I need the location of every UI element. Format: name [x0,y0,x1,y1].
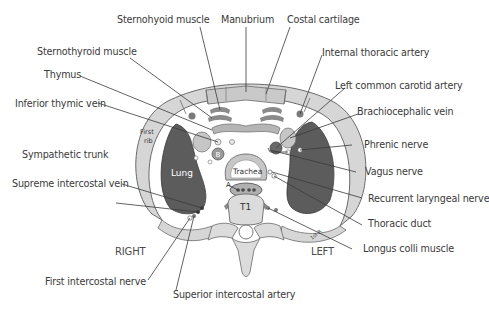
label-sternothyroid-muscle: Sternothyroid muscle [37,46,137,57]
b-marker-label: B [216,151,221,159]
label-supreme-intercostal-vein: Supreme intercostal vein [12,178,129,189]
strap-muscles [208,107,284,122]
label-recurrent-laryngeal-nerve: Recurrent laryngeal nerve [368,193,489,204]
label-manubrium: Manubrium [221,14,274,25]
first-rib-label-1: First [140,128,154,136]
thymus-shape [212,124,280,134]
label-superior-intercostal-artery: Superior intercostal artery [173,289,295,300]
orientation-left: LEFT [311,246,334,257]
label-phrenic-nerve: Phrenic nerve [364,139,428,150]
orientation-right: RIGHT [115,246,146,257]
label-costal-cartilage: Costal cartilage [287,14,360,25]
label-longus-colli-muscle: Longus colli muscle [363,243,454,254]
label-sternohyoid-muscle: Sternohyoid muscle [117,14,209,25]
trachea-label: Trachea [232,167,262,176]
label-inferior-thymic-vein: Inferior thymic vein [15,98,106,109]
label-brachiocephalic-vein: Brachiocephalic vein [357,106,454,117]
label-first-intercostal-nerve: First intercostal nerve [45,276,146,287]
label-thoracic-duct: Thoracic duct [368,218,431,229]
lung-label: Lung [171,168,193,178]
label-vagus-nerve: Vagus nerve [365,166,423,177]
label-internal-thoracic-artery: Internal thoracic artery [322,47,429,58]
label-sympathetic-trunk: Sympathetic trunk [22,149,108,160]
vertebra-label: T1 [239,202,251,212]
first-rib-label-2: rib [144,137,153,145]
label-thymus: Thymus [44,69,81,80]
label-left-common-carotid-artery: Left common carotid artery [335,80,462,91]
